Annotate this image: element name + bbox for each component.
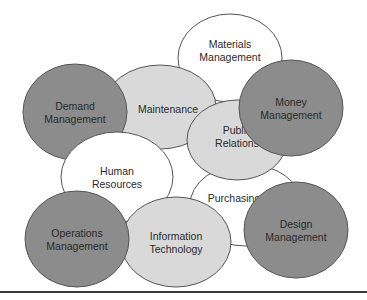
demand-management-label-line: Management: [44, 113, 105, 125]
node-information-technology: InformationTechnology: [121, 197, 231, 287]
money-management-label-line: Money: [275, 96, 307, 108]
operations-management-label-line: Operations: [51, 227, 102, 239]
materials-management-label-line: Materials: [209, 38, 252, 50]
design-management-label-line: Management: [265, 231, 326, 243]
design-management-label-line: Design: [280, 218, 313, 230]
node-operations-management: OperationsManagement: [25, 191, 129, 287]
bottom-rule: [0, 291, 367, 293]
materials-management-label-line: Management: [199, 51, 260, 63]
management-areas-diagram: MaterialsManagementMaintenanceDemandMana…: [0, 0, 367, 300]
human-resources-label-line: Human: [100, 165, 134, 177]
purchasing-label-line: Purchasing: [208, 192, 261, 204]
demand-management-label-line: Demand: [55, 100, 95, 112]
information-technology-label-line: Information: [150, 230, 203, 242]
maintenance-label-line: Maintenance: [138, 103, 198, 115]
information-technology-label-line: Technology: [149, 243, 203, 255]
human-resources-label-line: Resources: [92, 178, 142, 190]
node-design-management: DesignManagement: [244, 182, 348, 278]
operations-management-label-line: Management: [46, 240, 107, 252]
node-money-management: MoneyManagement: [239, 60, 343, 156]
money-management-label-line: Management: [260, 109, 321, 121]
